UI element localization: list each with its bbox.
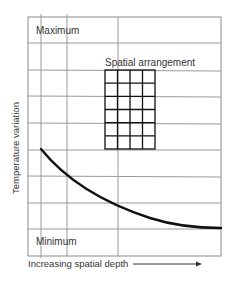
temperature-curve — [41, 149, 221, 228]
x-axis-label: Increasing spatial depth — [28, 259, 128, 269]
minimum-label: Minimum — [36, 237, 77, 247]
maximum-label: Maximum — [36, 26, 79, 36]
arrow-right-icon — [196, 262, 202, 267]
y-axis-label: Temperature variation — [10, 102, 21, 194]
spatial-arrangement-grid — [105, 70, 155, 149]
plot-frame — [28, 17, 221, 256]
diagram-canvas — [0, 0, 228, 284]
spatial-arrangement-label: Spatial arrangement — [105, 58, 195, 68]
